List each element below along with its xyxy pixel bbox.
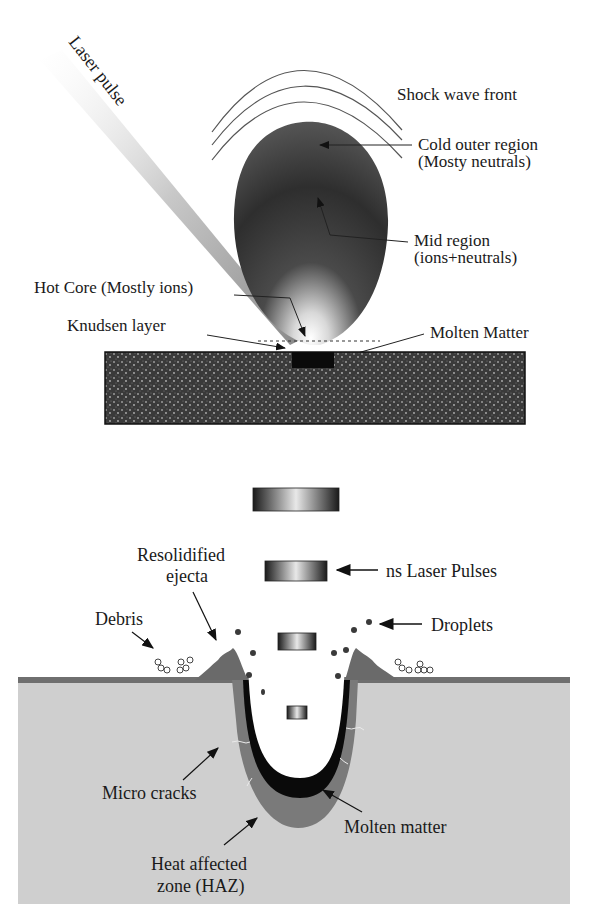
ns-ablation-panel: Resolidified ejecta ns Laser Pulses Debr…	[18, 488, 570, 904]
hot-core-label: Hot Core (Mostly ions)	[34, 278, 193, 297]
molten-matter-label-top: Molten Matter	[430, 323, 529, 342]
knudsen-label: Knudsen layer	[67, 316, 166, 335]
ns-pulse-4	[287, 706, 307, 719]
ns-pulses-label: ns Laser Pulses	[386, 561, 497, 581]
micro-cracks-label: Micro cracks	[102, 783, 196, 803]
ns-pulse-2	[265, 561, 327, 581]
ns-pulse-1	[253, 488, 339, 511]
haz-label-2: zone (HAZ)	[157, 876, 244, 897]
plasma-plume	[234, 122, 388, 345]
ns-pulse-3	[278, 633, 316, 650]
mid-region-label-2: (ions+neutrals)	[414, 248, 517, 267]
plasma-plume-panel: Laser pulse Shock wave front Cold outer …	[34, 32, 538, 424]
droplets-label: Droplets	[431, 615, 493, 635]
haz-label-1: Heat affected	[151, 854, 247, 874]
debris-particles-right	[395, 659, 433, 673]
laser-ablation-diagram: Laser pulse Shock wave front Cold outer …	[0, 0, 595, 904]
resolidified-label-2: ejecta	[166, 566, 208, 586]
molten-matter-label-bottom: Molten matter	[344, 817, 446, 837]
ejecta-rim-left	[195, 648, 248, 680]
debris-label: Debris	[95, 609, 143, 629]
cold-outer-label-2: (Mosty neutrals)	[418, 152, 531, 171]
debris-particles-left	[155, 657, 193, 673]
molten-pool	[292, 352, 334, 368]
shock-wave-label: Shock wave front	[397, 85, 517, 104]
ejecta-rim-right	[345, 648, 398, 680]
resolidified-label-1: Resolidified	[137, 545, 225, 565]
